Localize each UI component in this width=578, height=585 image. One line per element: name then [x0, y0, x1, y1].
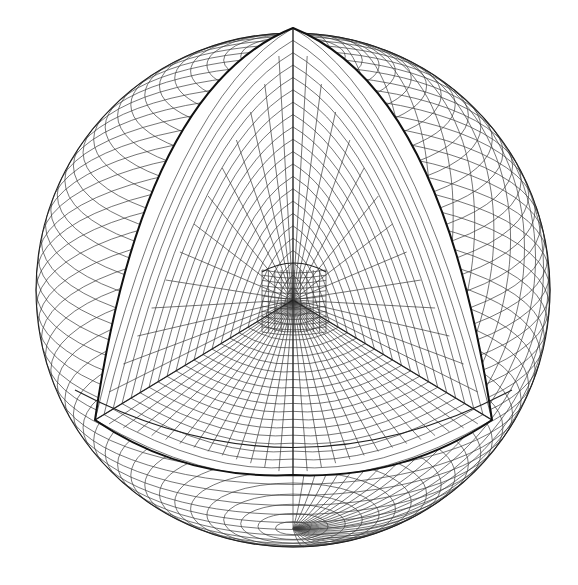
mesh-line — [293, 300, 435, 436]
mesh-line — [95, 300, 293, 420]
mesh-line — [293, 196, 378, 300]
mesh-line — [152, 300, 293, 436]
mesh-line — [293, 152, 544, 528]
mesh-line — [293, 58, 494, 529]
mesh-line — [208, 196, 293, 300]
mesh-line — [166, 300, 293, 440]
cut-faces-mesh — [95, 28, 492, 476]
mesh-line — [293, 300, 421, 440]
mesh-line — [293, 300, 492, 420]
sphere-mesh-figure — [0, 0, 578, 585]
sphere-wireframe — [0, 0, 578, 585]
mesh-line — [123, 300, 293, 428]
mesh-line — [293, 300, 393, 448]
mesh-line — [194, 300, 293, 448]
mesh-line — [293, 300, 464, 428]
